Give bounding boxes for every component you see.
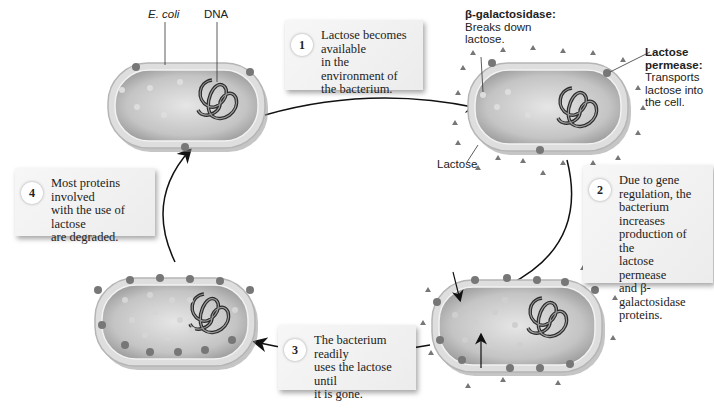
permease-title-line1: Lactose (645, 46, 703, 59)
dna-label: DNA (204, 8, 228, 21)
ecoli-label: E. coli (148, 8, 179, 21)
step-4-line2: with the use of lactose (51, 204, 145, 231)
step-3-line2: uses the lactose until (314, 361, 406, 388)
permease-desc-line1: Transports (645, 71, 703, 84)
step-4-line3: are degraded. (51, 231, 145, 245)
step-1-number: 1 (291, 34, 313, 56)
step-2-line2: regulation, the (619, 188, 703, 202)
beta-gal-desc-line2: lactose. (465, 33, 556, 46)
ecoli-cell-lactose-consumed (94, 274, 258, 370)
step-1-line1: Lactose becomes available (321, 29, 413, 56)
beta-gal-desc-line1: Breaks down (465, 21, 556, 34)
step-2-line6: and β-galactosidase (619, 282, 703, 309)
step-2-line4: production of the (619, 228, 703, 255)
step-4-box: 4 Most proteins involved with the use of… (15, 168, 155, 236)
arrow-step1 (265, 98, 478, 115)
step-2-number: 2 (589, 179, 611, 201)
lactose-permease-label: Lactose permease: Transports lactose int… (645, 46, 703, 109)
beta-galactosidase-title: β-galactosidase: (465, 8, 556, 21)
step-1-box: 1 Lactose becomes available in the envir… (285, 20, 423, 90)
step-2-line5: lactose permease (619, 255, 703, 282)
step-1-line2: in the environment of (321, 56, 413, 83)
step-4-line1: Most proteins involved (51, 177, 145, 204)
step-2-line1: Due to gene (619, 174, 703, 188)
step-2-line3: bacterium increases (619, 201, 703, 228)
permease-desc-line3: the cell. (645, 96, 703, 109)
step-2-line7: proteins. (619, 309, 703, 323)
ecoli-cell-lactose-available (452, 45, 650, 175)
ecoli-cell-high-protein (420, 265, 618, 388)
step-2-box: 2 Due to gene regulation, the bacterium … (583, 165, 713, 283)
step-4-number: 4 (21, 182, 43, 204)
step-3-number: 3 (284, 339, 306, 361)
ecoli-cell-initial (108, 22, 268, 152)
permease-title-line2: permease: (645, 59, 703, 72)
permease-desc-line2: lactose into (645, 84, 703, 97)
arrow-step4 (163, 150, 190, 262)
step-3-box: 3 The bacterium readily uses the lactose… (278, 325, 416, 390)
step-3-line3: it is gone. (314, 388, 406, 402)
beta-galactosidase-label: β-galactosidase: Breaks down lactose. (465, 8, 556, 46)
arrow-step2 (498, 160, 572, 290)
lactose-label: Lactose (437, 158, 477, 171)
step-1-line3: the bacterium. (321, 83, 413, 97)
step-3-line1: The bacterium readily (314, 334, 406, 361)
